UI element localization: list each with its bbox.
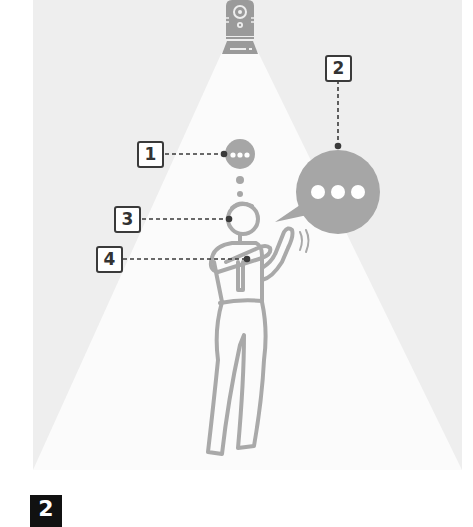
callout-label-3: 3 bbox=[114, 206, 141, 233]
endpoint-2 bbox=[335, 143, 342, 150]
callout-label-2: 2 bbox=[325, 55, 352, 82]
thought-dot-small bbox=[237, 191, 243, 197]
thought-dot-large bbox=[236, 176, 244, 184]
callout-label-4: 4 bbox=[96, 246, 123, 273]
endpoint-1 bbox=[221, 151, 228, 158]
endpoint-3 bbox=[226, 216, 233, 223]
ceiling-camera-icon bbox=[222, 0, 258, 54]
step-number-badge: 2 bbox=[30, 495, 62, 527]
callout-label-1: 1 bbox=[137, 141, 164, 168]
endpoint-4 bbox=[244, 256, 251, 263]
